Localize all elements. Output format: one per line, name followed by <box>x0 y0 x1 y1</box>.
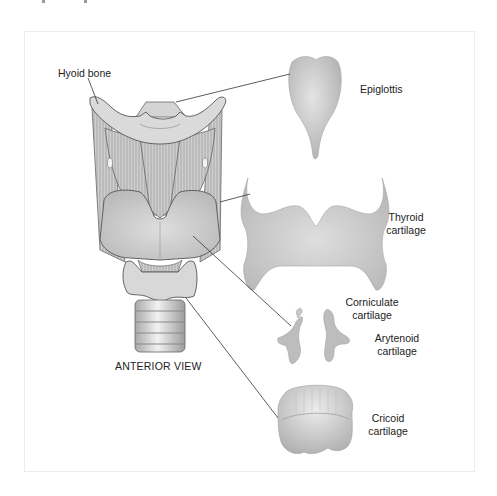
anterior-larynx <box>90 97 226 352</box>
label-thyroid-cartilage: Thyroid cartilage <box>384 211 428 237</box>
cricoid-cartilage <box>278 385 353 453</box>
leader-cricoid <box>186 298 278 418</box>
label-cricoid-line1: Cricoid <box>366 412 410 425</box>
foramen-left <box>108 158 113 168</box>
view-caption: ANTERIOR VIEW <box>115 360 202 372</box>
label-thyroid-line2: cartilage <box>384 224 428 237</box>
label-corniculate-line2: cartilage <box>344 309 400 322</box>
label-thyroid-line1: Thyroid <box>384 211 428 224</box>
label-corniculate-cartilage: Corniculate cartilage <box>344 296 400 322</box>
arytenoid-cartilage-left <box>278 317 303 364</box>
label-arytenoid-cartilage: Arytenoid cartilage <box>372 332 422 358</box>
label-hyoid-bone: Hyoid bone <box>58 67 111 80</box>
epiglottis <box>289 57 342 160</box>
label-arytenoid-line2: cartilage <box>372 345 422 358</box>
label-epiglottis: Epiglottis <box>360 83 403 96</box>
foramen-right <box>203 158 208 168</box>
thyroid-cartilage <box>241 178 389 290</box>
cricothyroid-ligament <box>138 260 182 272</box>
label-corniculate-line1: Corniculate <box>344 296 400 309</box>
leader-epiglottis <box>176 74 290 102</box>
label-cricoid-line2: cartilage <box>366 425 410 438</box>
label-arytenoid-line1: Arytenoid <box>372 332 422 345</box>
label-cricoid-cartilage: Cricoid cartilage <box>366 412 410 438</box>
